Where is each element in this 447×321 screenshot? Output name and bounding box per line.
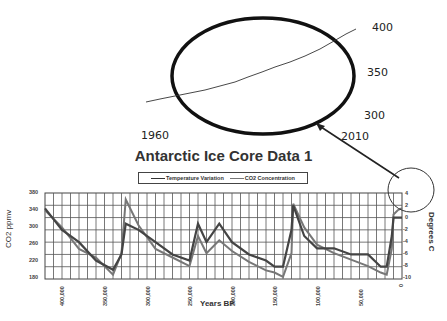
arrow-head-icon xyxy=(316,123,325,131)
chart-title: Antarctic Ice Core Data 1 xyxy=(0,147,447,164)
legend-label-temperature: Temperature Variation xyxy=(166,175,224,181)
y2-tick-minus10: -10 xyxy=(403,274,411,280)
y-tick-380: 380 xyxy=(29,189,38,195)
y2-tick-4: 4 xyxy=(405,190,408,196)
plot-area xyxy=(45,168,434,279)
keeling-curve-line xyxy=(146,29,356,102)
x-axis-label: Years BP xyxy=(200,299,235,308)
y-tick-340: 340 xyxy=(29,206,38,212)
legend-swatch-co2 xyxy=(230,178,244,179)
x-tick-350000: 350,000 xyxy=(102,286,108,306)
x-tick-50000: 50,000 xyxy=(358,289,364,306)
inset-label-1960: 1960 xyxy=(141,129,169,142)
y2-tick-2: 2 xyxy=(405,202,408,208)
x-tick-300000: 300,000 xyxy=(145,286,151,306)
y-tick-300: 300 xyxy=(29,223,38,229)
inset-label-350: 350 xyxy=(367,66,388,79)
legend-item-co2: CO2 Concentration xyxy=(230,175,295,181)
inset-label-2010: 2010 xyxy=(341,130,369,143)
y2-axis-label: Degrees C xyxy=(427,212,436,252)
y-tick-180: 180 xyxy=(29,274,38,280)
x-tick-400000: 400,000 xyxy=(59,286,65,306)
legend-swatch-temperature xyxy=(151,178,165,179)
highlight-ellipse xyxy=(172,18,354,134)
y2-tick-minus8: -8 xyxy=(403,262,408,268)
inset-label-400: 400 xyxy=(372,21,393,34)
recent-data-circle xyxy=(388,168,434,212)
y2-tick-minus4: -4 xyxy=(403,238,408,244)
y-tick-220: 220 xyxy=(29,257,38,263)
legend-label-co2: CO2 Concentration xyxy=(245,175,295,181)
x-tick-0: 0 xyxy=(398,284,404,287)
y2-tick-minus2: -2 xyxy=(403,226,408,232)
inset-label-300: 300 xyxy=(364,109,385,122)
x-tick-100000: 100,000 xyxy=(315,286,321,306)
y2-tick-minus6: -6 xyxy=(403,250,408,256)
x-tick-150000: 150,000 xyxy=(272,286,278,306)
legend-item-temperature: Temperature Variation xyxy=(151,175,224,181)
y2-tick-0: 0 xyxy=(405,214,408,220)
y-tick-260: 260 xyxy=(29,240,38,246)
legend: Temperature Variation CO2 Concentration xyxy=(138,172,308,184)
x-tick-250000: 250,000 xyxy=(187,286,193,306)
y-axis-label: CO2 ppmv xyxy=(4,210,13,248)
